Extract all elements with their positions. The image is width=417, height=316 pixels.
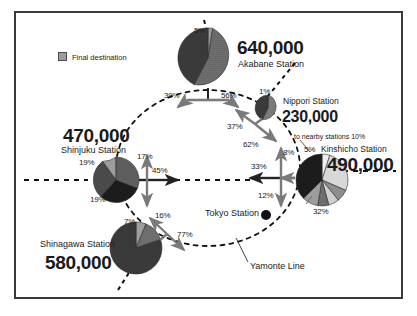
tokyo-station-dot bbox=[261, 210, 271, 220]
nippori-pct-down: 62% bbox=[243, 141, 258, 149]
shinjuku-passengers: 470,000 bbox=[63, 126, 130, 145]
nippori-passengers: 230,000 bbox=[282, 109, 338, 125]
shinjuku-station-name: Shinjuku Station bbox=[61, 146, 126, 155]
shinjuku-pct-down: 19% bbox=[90, 196, 105, 204]
legend-swatch-final-destination bbox=[58, 52, 67, 61]
kinshicho-nearby-note: to nearby stations 10% bbox=[294, 133, 365, 140]
pie-akabane bbox=[178, 28, 229, 85]
nippori-station-name: Nippori Station bbox=[283, 97, 339, 106]
shinjuku-pct-right: 45% bbox=[152, 167, 167, 175]
shinagawa-pct-top: 7% bbox=[124, 218, 135, 226]
akabane-pct-top: 5% bbox=[194, 27, 205, 35]
nippori-pct-left: 37% bbox=[227, 123, 242, 131]
shinjuku-pct-up: 17% bbox=[137, 153, 152, 161]
shinagawa-passengers: 580,000 bbox=[45, 253, 112, 272]
akabane-station-name: Akabane Station bbox=[238, 60, 304, 69]
akabane-passengers: 640,000 bbox=[237, 38, 304, 57]
flow-shinjuku bbox=[139, 156, 178, 206]
kinshicho-pct-down: 12% bbox=[258, 192, 273, 200]
yamonte-line-leader bbox=[236, 238, 248, 262]
legend-label-final-destination: Final destination bbox=[72, 53, 127, 62]
pie-nippori bbox=[255, 95, 276, 120]
figure-root: Final destination 640,000 Akabane Statio… bbox=[0, 0, 417, 316]
shinjuku-pct-topleft: 19% bbox=[79, 159, 94, 167]
kinshicho-pct-top: 5% bbox=[304, 146, 315, 154]
pie-shinagawa bbox=[110, 222, 162, 274]
kinshicho-pct-left: 33% bbox=[251, 163, 266, 171]
shinagawa-pct-up: 16% bbox=[155, 212, 170, 220]
kinshicho-passengers: 490,000 bbox=[327, 155, 394, 174]
tokyo-station-label: Tokyo Station bbox=[205, 209, 259, 218]
akabane-pct-right: 56% bbox=[221, 92, 236, 100]
nippori-pct-top: 1% bbox=[259, 88, 270, 96]
yamonte-line-label: Yamonte Line bbox=[250, 262, 305, 271]
akabane-pct-left: 39% bbox=[164, 92, 179, 100]
kinshicho-station-name: Kinshicho Station bbox=[321, 145, 387, 154]
kinshicho-pct-up: 8% bbox=[283, 149, 294, 157]
shinagawa-pct-right: 77% bbox=[177, 231, 192, 239]
shinagawa-station-name: Shinagawa Station bbox=[40, 240, 115, 249]
kinshicho-pct-bottom: 32% bbox=[313, 208, 328, 216]
